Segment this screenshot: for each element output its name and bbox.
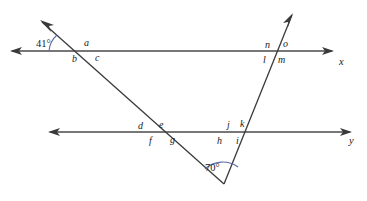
angle-label-e: e [159, 119, 164, 130]
angle-label-n: n [265, 39, 270, 50]
angle-label-f: f [149, 135, 153, 146]
angle-label-m: m [278, 54, 285, 65]
geometry-figure-canvas: 41° 70° x y a b c n o l m d e f g j k h … [0, 0, 367, 201]
transversal-right-segment [224, 15, 292, 184]
angle-label-l: l [263, 54, 266, 65]
angle-label-j: j [225, 119, 230, 130]
angle-label-i: i [236, 135, 239, 146]
angle-label-c: c [95, 52, 100, 63]
angle-measure-70: 70° [205, 162, 220, 173]
line-y [48, 128, 352, 136]
angle-label-d: d [138, 120, 144, 131]
transversal-right-arrowhead [283, 13, 293, 27]
angle-label-g: g [170, 134, 175, 145]
geometry-diagram: 41° 70° x y a b c n o l m d e f g j k h … [0, 0, 367, 201]
angle-label-b: b [72, 53, 77, 64]
transversal-left-segment [42, 22, 224, 184]
angle-label-h: h [217, 135, 222, 146]
transversal-left [40, 20, 224, 184]
axis-label-y: y [348, 135, 354, 146]
angle-label-a: a [84, 37, 89, 48]
axis-label-x: x [338, 56, 344, 67]
angle-measure-41: 41° [36, 38, 51, 49]
angle-label-k: k [240, 118, 245, 129]
angle-label-o: o [283, 38, 288, 49]
